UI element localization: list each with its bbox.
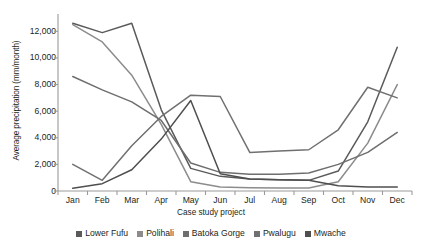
legend-swatch-icon xyxy=(305,231,311,237)
x-axis-tick-labels: JanFebMarAprMayJunJulAugSepOctNovDec xyxy=(0,195,422,209)
legend-swatch-icon xyxy=(254,231,260,237)
legend-item-lower-fufu[interactable]: Lower Fufu xyxy=(76,229,128,238)
legend-label: Lower Fufu xyxy=(85,229,128,238)
legend-label: Pwalugu xyxy=(263,229,296,238)
x-tick-label-dec: Dec xyxy=(377,195,417,205)
legend-label: Polihali xyxy=(146,229,174,238)
series-line-pwalugu xyxy=(73,87,398,180)
legend-swatch-icon xyxy=(137,231,143,237)
legend-swatch-icon xyxy=(76,231,82,237)
chart-legend: Lower FufuPolihaliBatoka GorgePwaluguMwa… xyxy=(0,229,422,238)
precipitation-line-chart: Average precipitation (mm/month) 02,0004… xyxy=(0,0,422,248)
legend-item-polihali[interactable]: Polihali xyxy=(137,229,174,238)
legend-item-batoka-gorge[interactable]: Batoka Gorge xyxy=(183,229,245,238)
series-line-polihali xyxy=(73,25,398,188)
legend-label: Batoka Gorge xyxy=(192,229,245,238)
x-axis-title: Case study project xyxy=(0,208,422,217)
legend-label: Mwache xyxy=(314,229,346,238)
legend-item-pwalugu[interactable]: Pwalugu xyxy=(254,229,296,238)
legend-item-mwache[interactable]: Mwache xyxy=(305,229,346,238)
legend-swatch-icon xyxy=(183,231,189,237)
